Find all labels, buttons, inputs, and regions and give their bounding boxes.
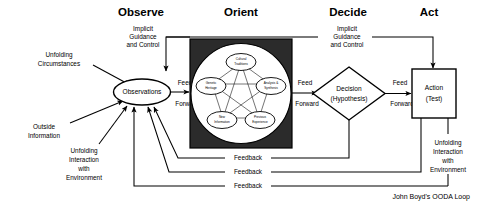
outside-information-arrow: [70, 101, 123, 123]
action-rect: [412, 69, 456, 118]
unfolding-circumstances-line2: Circumstances: [38, 60, 80, 67]
input-outside-information: Outside Information: [28, 101, 123, 139]
implicit-guidance-left-line1: Implicit: [133, 25, 153, 33]
previous-experience-line1: Previous: [254, 115, 266, 119]
implicit-guidance-right-line2: Guidance: [333, 33, 361, 40]
analysis-synthesis-line2: Synthesis: [264, 86, 278, 90]
diagram-caption: John Boyd's OODA Loop: [392, 193, 470, 201]
implicit-guidance-left-line3: and Control: [126, 41, 159, 48]
ff-decide-act-top: Feed: [393, 79, 408, 86]
output-unfolding-interaction: Unfolding Interaction with Environment: [430, 118, 466, 186]
analysis-synthesis-line1: Analysis &: [264, 81, 279, 85]
genetic-heritage-line1: Genetic: [206, 81, 217, 85]
unfolding-interaction-line2: Interaction: [69, 156, 99, 163]
implicit-guidance-left-group: Implicit Guidance and Control: [126, 25, 190, 71]
unfolding-interaction-line1: Unfolding: [70, 147, 97, 155]
implicit-guidance-right-line3: and Control: [330, 41, 363, 48]
decision-label-line2: (Hypothesis): [330, 95, 367, 103]
output-line3: with: [441, 157, 454, 164]
implicit-guidance-left-arrow: [166, 37, 190, 71]
output-line2: Interaction: [433, 148, 463, 155]
new-information-line2: Information: [214, 120, 230, 124]
observations-label: Observations: [123, 88, 163, 95]
action-node: Action (Test): [412, 69, 456, 118]
action-label-line1: Action: [425, 84, 444, 91]
decision-label-line1: Decision: [336, 85, 362, 92]
outside-information-line2: Information: [28, 132, 60, 139]
observations-node: Observations: [114, 79, 171, 105]
previous-experience-line2: Experience: [252, 120, 268, 124]
unfolding-circumstances-line1: Unfolding: [45, 51, 72, 59]
phase-titles: Observe Orient Decide Act: [118, 6, 438, 18]
orient-panel-group: Cultural Traditions Genetic Heritage Ana…: [190, 39, 292, 148]
unfolding-interaction-line3: with: [77, 165, 90, 172]
decision-diamond: [313, 67, 385, 120]
phase-title-act: Act: [420, 6, 439, 18]
output-line1: Unfolding: [434, 139, 461, 147]
ff-orient-decide-bottom: Forward: [295, 100, 319, 107]
feed-forward-decide-act: Feed Forward: [385, 79, 414, 107]
new-information-line1: New: [219, 115, 226, 119]
input-unfolding-interaction-environment: Unfolding Interaction with Environment: [66, 106, 127, 181]
output-line4: Environment: [430, 166, 466, 173]
input-unfolding-circumstances: Unfolding Circumstances: [38, 51, 130, 85]
phase-title-observe: Observe: [118, 6, 164, 18]
unfolding-interaction-arrow: [99, 106, 127, 144]
orient-node-genetic-heritage: Genetic Heritage: [196, 78, 226, 95]
ooda-diagram-canvas: Observe Orient Decide Act Implicit Guida…: [0, 0, 483, 209]
feedback-2-right-seg: [271, 118, 421, 172]
implicit-guidance-left-line2: Guidance: [129, 33, 157, 40]
ooda-loop-diagram: Observe Orient Decide Act Implicit Guida…: [0, 0, 483, 209]
outside-information-line1: Outside: [33, 123, 55, 130]
action-label-line2: (Test): [426, 95, 442, 103]
feedback-label-3: Feedback: [234, 182, 263, 189]
phase-title-decide: Decide: [329, 6, 367, 18]
orient-node-previous-experience: Previous Experience: [245, 112, 275, 129]
genetic-heritage-line2: Heritage: [205, 86, 217, 90]
orient-node-analysis-synthesis: Analysis & Synthesis: [256, 78, 286, 95]
cultural-traditions-line1: Cultural: [236, 57, 247, 61]
unfolding-interaction-line4: Environment: [66, 174, 102, 181]
implicit-guidance-right-line1: Implicit: [337, 25, 357, 33]
feedback-label-2: Feedback: [234, 168, 263, 175]
cultural-traditions-line2: Traditions: [234, 62, 248, 66]
decision-node: Decision (Hypothesis): [313, 67, 385, 120]
orient-node-cultural-traditions: Cultural Traditions: [226, 54, 256, 71]
ff-orient-decide-top: Feed: [298, 79, 313, 86]
feedback-label-1: Feedback: [234, 154, 263, 161]
phase-title-orient: Orient: [224, 6, 258, 18]
ff-decide-act-bottom: Forward: [390, 100, 414, 107]
implicit-guidance-right-arrow: [372, 37, 433, 68]
orient-node-new-information: New Information: [207, 112, 237, 129]
